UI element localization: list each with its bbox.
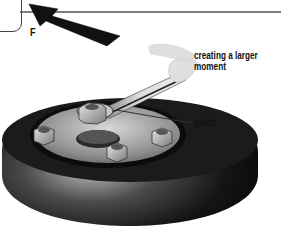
diagram-graphic	[0, 0, 281, 236]
pivot-label: pivot	[194, 117, 216, 128]
wrench-moment-diagram: t	[0, 0, 281, 236]
moment-label: creating a larger moment	[194, 50, 281, 72]
force-label: F	[30, 27, 36, 38]
force-arrow	[29, 4, 120, 46]
